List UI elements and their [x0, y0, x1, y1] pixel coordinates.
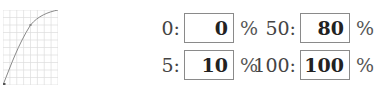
- unit-label-50: %: [356, 17, 374, 39]
- field-label-5: 5:: [160, 54, 180, 76]
- field-row-5: 5: 10 %: [160, 50, 258, 80]
- input-5[interactable]: 10: [184, 50, 234, 80]
- field-row-0: 0: 0 %: [160, 13, 258, 43]
- field-label-0: 0:: [160, 17, 180, 39]
- field-row-100: 100: 100 %: [252, 50, 374, 80]
- input-50[interactable]: 80: [300, 13, 350, 43]
- unit-label-100: %: [356, 54, 374, 76]
- input-100[interactable]: 100: [300, 50, 350, 80]
- curve-point-50: [30, 24, 32, 26]
- curve-point-0: [3, 83, 6, 85]
- field-row-50: 50: 80 %: [258, 13, 374, 43]
- input-0[interactable]: 0: [184, 13, 234, 43]
- curve-graph[interactable]: [3, 10, 58, 85]
- field-label-50: 50:: [258, 17, 296, 39]
- field-label-100: 100:: [252, 54, 296, 76]
- unit-label-0: %: [240, 17, 258, 39]
- curve-graph-svg: [3, 10, 58, 85]
